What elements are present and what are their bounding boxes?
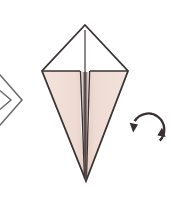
origami-diagram-canvas: Origami fold step - kite base with turn … — [0, 0, 171, 201]
origami-diagram-figure: Origami fold step - kite base with turn … — [0, 0, 171, 201]
center-crease-core — [85, 71, 86, 180]
